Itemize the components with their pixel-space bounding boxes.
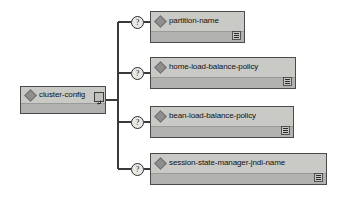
node-home-load-balance-policy-header: home-load-balance-policy (151, 58, 295, 77)
node-partition-name-header: partition-name (151, 12, 244, 31)
expand-collapse-icon[interactable] (94, 92, 104, 102)
node-session-state-manager-jndi-name-header: session-state-manager-jndi-name (151, 154, 326, 173)
diamond-icon (154, 110, 167, 123)
node-cluster-config-body (21, 103, 105, 113)
node-partition-name[interactable]: partition-name (150, 11, 245, 43)
node-session-state-manager-jndi-name-body (151, 173, 326, 184)
node-cluster-config[interactable]: cluster-config (20, 86, 106, 114)
occurrence-marker-partition-name: ? (131, 16, 144, 29)
diamond-icon (154, 15, 167, 28)
occurrence-marker-session-state-manager-jndi-name: ? (131, 163, 144, 176)
node-bean-load-balance-policy[interactable]: bean-load-balance-policy (150, 106, 294, 138)
node-session-state-manager-jndi-name-label: session-state-manager-jndi-name (169, 159, 285, 167)
occurrence-marker-home-load-balance-policy: ? (131, 67, 144, 80)
sequence-list-icon (283, 72, 292, 81)
sequence-list-icon (281, 121, 290, 130)
occurrence-marker-bean-load-balance-policy: ? (131, 116, 144, 129)
node-partition-name-body (151, 31, 244, 42)
diamond-icon (154, 157, 167, 170)
schema-diagram-canvas: cluster-config ? partition-name (0, 0, 341, 199)
node-bean-load-balance-policy-body (151, 126, 293, 137)
sequence-list-icon (232, 26, 241, 35)
node-home-load-balance-policy-body (151, 77, 295, 88)
node-bean-load-balance-policy-label: bean-load-balance-policy (169, 112, 256, 120)
node-bean-load-balance-policy-header: bean-load-balance-policy (151, 107, 293, 126)
node-home-load-balance-policy-label: home-load-balance-policy (169, 63, 258, 71)
node-session-state-manager-jndi-name[interactable]: session-state-manager-jndi-name (150, 153, 327, 185)
diamond-icon (154, 61, 167, 74)
diamond-icon (24, 89, 37, 102)
sequence-list-icon (314, 168, 323, 177)
node-cluster-config-header: cluster-config (21, 87, 105, 103)
node-partition-name-label: partition-name (169, 17, 219, 25)
node-cluster-config-label: cluster-config (39, 91, 85, 99)
node-home-load-balance-policy[interactable]: home-load-balance-policy (150, 57, 296, 89)
